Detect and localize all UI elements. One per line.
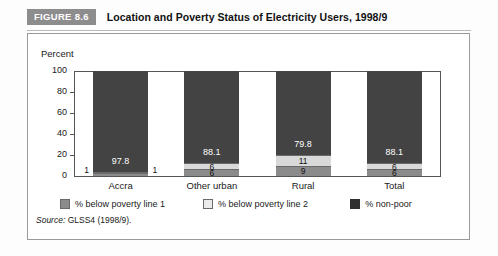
bar-value-poverty-line-2: 11 <box>276 157 331 166</box>
y-axis-tick-label: 0 <box>41 170 67 180</box>
bar-group: 1197.888.16679.811988.166 <box>75 71 440 176</box>
stacked-bar[interactable]: 88.166 <box>184 71 239 176</box>
bar-value-poverty-line-2: 1 <box>152 165 157 175</box>
y-axis-tick-label: 80 <box>41 86 67 96</box>
stacked-bar[interactable]: 1197.8 <box>93 71 148 176</box>
bar-segment-non-poor: 88.1 <box>184 71 239 163</box>
source-prefix: Source: <box>36 215 65 225</box>
legend-swatch-icon <box>350 199 360 209</box>
source-text: GLSS4 (1998/9). <box>68 215 132 225</box>
legend-item-poverty-line-1: % below poverty line 1 <box>60 199 165 209</box>
legend-swatch-icon <box>203 199 213 209</box>
plot-right-border <box>440 71 441 177</box>
legend-label: % non-poor <box>365 199 412 209</box>
bar-segment-non-poor: 79.8 <box>276 71 331 155</box>
y-axis-title: Percent <box>41 48 74 59</box>
figure-page: FIGURE 8.6 Location and Poverty Status o… <box>0 0 498 256</box>
bar-value-poverty-line-1: 9 <box>276 167 331 176</box>
bar-segment-non-poor: 97.8 <box>93 71 148 172</box>
header-divider <box>27 30 471 31</box>
bar-slot: 1197.8 <box>75 71 166 176</box>
bar-value-non-poor: 88.1 <box>184 147 239 157</box>
y-axis-tick-label: 20 <box>41 149 67 159</box>
bar-value-non-poor: 79.8 <box>276 139 331 149</box>
legend-item-non-poor: % non-poor <box>350 199 412 209</box>
source-note: Source: GLSS4 (1998/9). <box>36 215 131 225</box>
x-axis-category-label: Total <box>349 180 440 191</box>
bar-segment-poverty-line-1: 6 <box>367 170 422 176</box>
x-axis-category-labels: AccraOther urbanRuralTotal <box>75 180 440 191</box>
bar-segment-poverty-line-2: 11 <box>276 155 331 167</box>
legend-swatch-icon <box>60 199 70 209</box>
bar-slot: 79.8119 <box>258 71 349 176</box>
legend-label: % below poverty line 1 <box>75 199 165 209</box>
bar-value-non-poor: 88.1 <box>367 147 422 157</box>
x-axis-category-label: Accra <box>75 180 166 191</box>
figure-header: FIGURE 8.6 Location and Poverty Status o… <box>27 9 387 25</box>
legend-label: % below poverty line 2 <box>218 199 308 209</box>
stacked-bar[interactable]: 88.166 <box>367 71 422 176</box>
bar-slot: 88.166 <box>166 71 257 176</box>
bar-slot: 88.166 <box>349 71 440 176</box>
bar-value-poverty-line-1: 6 <box>367 169 422 178</box>
bar-value-poverty-line-1: 1 <box>84 165 89 175</box>
stacked-bar[interactable]: 79.8119 <box>276 71 331 176</box>
bar-value-poverty-line-1: 6 <box>184 169 239 178</box>
x-axis-category-label: Rural <box>258 180 349 191</box>
bar-segment-poverty-line-1 <box>93 174 148 176</box>
bar-segment-poverty-line-1: 6 <box>184 170 239 176</box>
figure-number-badge: FIGURE 8.6 <box>27 9 96 25</box>
y-axis-tick-label: 40 <box>41 128 67 138</box>
bar-segment-non-poor: 88.1 <box>367 71 422 163</box>
figure-title: Location and Poverty Status of Electrici… <box>107 11 388 23</box>
bar-segment-poverty-line-1: 9 <box>276 167 331 176</box>
bar-value-non-poor: 97.8 <box>93 156 148 166</box>
chart-legend: % below poverty line 1 % below poverty l… <box>60 199 460 209</box>
y-axis-tick-label: 60 <box>41 107 67 117</box>
legend-item-poverty-line-2: % below poverty line 2 <box>203 199 308 209</box>
x-axis-category-label: Other urban <box>166 180 257 191</box>
y-axis-tick-label: 100 <box>41 65 67 75</box>
